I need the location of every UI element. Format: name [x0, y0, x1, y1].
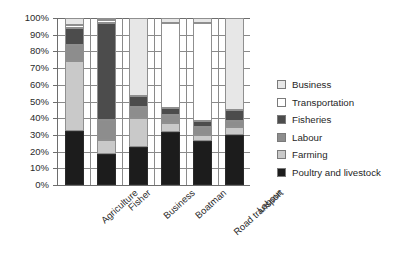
bar-segment-fisheries[interactable] [193, 121, 212, 128]
y-tick-mark [53, 18, 58, 19]
bar-segment-poultry-and-livestock[interactable] [161, 132, 180, 185]
bar-segment-farming[interactable] [65, 61, 84, 130]
bar-business[interactable] [129, 18, 148, 185]
bar-segment-fisheries[interactable] [161, 108, 180, 115]
legend-swatch-icon [277, 150, 286, 159]
bar-road-transport[interactable] [193, 18, 212, 185]
legend-swatch-icon [277, 98, 286, 107]
bar-fisher[interactable] [97, 18, 116, 185]
y-tick-label: 40% [30, 113, 49, 123]
bar-segment-farming[interactable] [193, 135, 212, 141]
bar-segment-business[interactable] [225, 18, 244, 110]
category-separator [186, 18, 187, 185]
y-tick-mark [53, 51, 58, 52]
legend-label: Fisheries [292, 114, 331, 125]
y-tick-label: 60% [30, 80, 49, 90]
legend-label: Transportation [292, 97, 354, 108]
legend-item[interactable]: Transportation [277, 94, 407, 112]
bar-segment-fisheries[interactable] [129, 96, 148, 106]
bar-segment-poultry-and-livestock[interactable] [65, 131, 84, 185]
x-tick-label: Boatman [192, 187, 228, 221]
bar-segment-transportation[interactable] [193, 23, 212, 121]
bar-agriculture[interactable] [65, 18, 84, 185]
bar-segment-labour[interactable] [161, 115, 180, 123]
bar-segment-fisheries[interactable] [65, 28, 84, 45]
legend-swatch-icon [277, 168, 286, 177]
legend-item[interactable]: Farming [277, 146, 407, 164]
bar-segment-transportation[interactable] [97, 20, 116, 23]
bar-segment-labour[interactable] [65, 45, 84, 62]
y-tick-mark [53, 35, 58, 36]
bar-segment-poultry-and-livestock[interactable] [225, 135, 244, 185]
bar-segment-business[interactable] [129, 18, 148, 96]
y-tick-mark [53, 152, 58, 153]
bar-segment-labour[interactable] [225, 121, 244, 128]
y-tick-mark [53, 102, 58, 103]
y-tick-mark [53, 135, 58, 136]
bar-segment-fisheries[interactable] [97, 23, 116, 120]
bar-segment-farming[interactable] [161, 123, 180, 131]
category-separator [154, 18, 155, 185]
legend-swatch-icon [277, 115, 286, 124]
legend-swatch-icon [277, 80, 286, 89]
y-axis-labels: 0%10%20%30%40%50%60%70%80%90%100% [0, 18, 52, 185]
bar-segment-business[interactable] [65, 18, 84, 25]
bar-segment-transportation[interactable] [161, 23, 180, 108]
y-tick-label: 30% [30, 130, 49, 140]
bar-segment-transportation[interactable] [65, 25, 84, 28]
category-separator [122, 18, 123, 185]
category-separator [218, 18, 219, 185]
legend-label: Poultry and livestock [292, 167, 381, 178]
y-tick-label: 0% [35, 180, 49, 190]
y-tick-mark [53, 118, 58, 119]
bar-segment-business[interactable] [97, 18, 116, 20]
bar-segment-labour[interactable] [97, 120, 116, 140]
x-tick-label: Labour [254, 187, 283, 215]
bar-segment-labour[interactable] [129, 107, 148, 119]
bar-segment-farming[interactable] [225, 127, 244, 135]
bar-segment-business[interactable] [193, 18, 212, 23]
legend-label: Labour [292, 132, 322, 143]
bar-segment-poultry-and-livestock[interactable] [193, 141, 212, 185]
bar-labour[interactable] [225, 18, 244, 185]
stacked-bar-chart: 0%10%20%30%40%50%60%70%80%90%100% Agricu… [0, 0, 409, 260]
bar-segment-poultry-and-livestock[interactable] [129, 147, 148, 185]
y-tick-mark [53, 68, 58, 69]
bar-boatman[interactable] [161, 18, 180, 185]
legend-item[interactable]: Labour [277, 129, 407, 147]
y-tick-label: 20% [30, 147, 49, 157]
legend-item[interactable]: Poultry and livestock [277, 164, 407, 182]
y-tick-label: 100% [25, 13, 49, 23]
y-tick-mark [53, 85, 58, 86]
y-tick-mark [53, 185, 58, 186]
x-tick-label: Business [160, 187, 196, 221]
y-tick-label: 50% [30, 97, 49, 107]
x-axis-labels: AgricultureFisherBusinessBoatmanRoad tra… [57, 187, 257, 257]
chart-legend: BusinessTransportationFisheriesLabourFar… [277, 76, 407, 181]
bar-segment-fisheries[interactable] [225, 110, 244, 121]
y-tick-label: 10% [30, 163, 49, 173]
category-separator [90, 18, 91, 185]
y-tick-mark [53, 168, 58, 169]
legend-item[interactable]: Business [277, 76, 407, 94]
bar-segment-business[interactable] [161, 18, 180, 23]
y-tick-label: 80% [30, 46, 49, 56]
y-tick-label: 90% [30, 30, 49, 40]
bar-segment-farming[interactable] [97, 140, 116, 154]
legend-swatch-icon [277, 133, 286, 142]
legend-item[interactable]: Fisheries [277, 111, 407, 129]
plot-area [57, 18, 250, 186]
legend-label: Farming [292, 149, 328, 160]
bar-segment-farming[interactable] [129, 118, 148, 146]
y-tick-label: 70% [30, 63, 49, 73]
legend-label: Business [292, 79, 331, 90]
bar-segment-poultry-and-livestock[interactable] [97, 154, 116, 185]
bar-segment-labour[interactable] [193, 127, 212, 135]
